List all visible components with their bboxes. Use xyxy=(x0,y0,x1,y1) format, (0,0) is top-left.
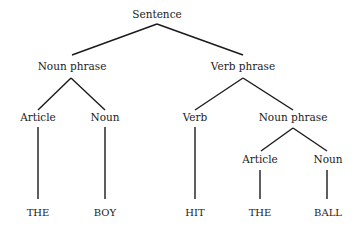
node-noun-1: Noun xyxy=(90,111,119,123)
node-verb-phrase: Verb phrase xyxy=(210,60,275,72)
edge-sentence-vp xyxy=(157,24,243,55)
node-noun-phrase-1: Noun phrase xyxy=(38,60,107,72)
tree-svg: Sentence Noun phrase Verb phrase Article… xyxy=(0,0,359,240)
parse-tree-diagram: Sentence Noun phrase Verb phrase Article… xyxy=(0,0,359,240)
edge-np1-noun1 xyxy=(71,78,105,110)
edge-vp-verb xyxy=(195,78,243,110)
edge-np2-noun2 xyxy=(293,128,327,151)
edge-np2-article2 xyxy=(261,128,293,151)
terminal-the-2: THE xyxy=(249,207,272,218)
terminal-the-1: THE xyxy=(27,207,50,218)
node-article-1: Article xyxy=(19,111,56,123)
terminal-hit: HIT xyxy=(185,207,205,218)
edge-sentence-np xyxy=(72,24,157,55)
edge-np1-article1 xyxy=(38,78,71,110)
node-sentence: Sentence xyxy=(132,8,181,20)
node-article-2: Article xyxy=(241,153,278,165)
node-noun-phrase-2: Noun phrase xyxy=(259,111,328,123)
terminal-boy: BOY xyxy=(94,207,117,218)
node-verb: Verb xyxy=(182,111,208,123)
terminal-ball: BALL xyxy=(314,207,342,218)
node-noun-2: Noun xyxy=(313,153,342,165)
edge-vp-np2 xyxy=(243,78,293,110)
